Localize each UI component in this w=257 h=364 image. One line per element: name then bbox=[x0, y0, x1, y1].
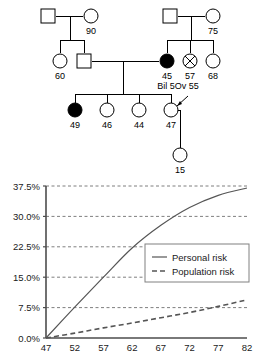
pedigree-label-49: 49 bbox=[70, 120, 80, 130]
pedigree-label-15: 15 bbox=[175, 165, 185, 175]
x-tick-label-6: 77 bbox=[213, 342, 224, 353]
x-tick-label-1: 52 bbox=[69, 342, 80, 353]
pedigree-diagram: 90 75 60 45 57 68 Bil 5Ov 55 bbox=[0, 0, 257, 178]
legend-label-population-risk: Population risk bbox=[172, 266, 235, 277]
chart-y-axis-labels: 0.0%7.5%15.0%22.5%30.0%37.5% bbox=[13, 181, 40, 344]
risk-chart-svg: 0.0%7.5%15.0%22.5%30.0%37.5% 47525762677… bbox=[0, 178, 257, 364]
screenshot-root: 90 75 60 45 57 68 Bil 5Ov 55 bbox=[0, 0, 257, 364]
y-tick-label-0: 0.0% bbox=[18, 333, 40, 344]
pedigree-symbol-gen1-father-right bbox=[163, 9, 177, 23]
x-tick-label-7: 82 bbox=[242, 342, 253, 353]
pedigree-symbol-gen3-daughter-49-affected bbox=[68, 103, 82, 117]
x-tick-label-2: 57 bbox=[98, 342, 109, 353]
pedigree-symbol-gen1-father-left bbox=[41, 9, 55, 23]
pedigree-label-44: 44 bbox=[134, 120, 144, 130]
pedigree-label-90: 90 bbox=[86, 26, 96, 36]
chart-x-axis-labels: 4752576267727782 bbox=[41, 342, 253, 353]
x-tick-label-4: 67 bbox=[156, 342, 167, 353]
proband-arrow-icon bbox=[177, 96, 188, 106]
x-tick-label-0: 47 bbox=[41, 342, 52, 353]
pedigree-label-75: 75 bbox=[208, 26, 218, 36]
x-tick-label-5: 72 bbox=[184, 342, 195, 353]
y-tick-label-1: 7.5% bbox=[18, 302, 40, 313]
pedigree-symbol-gen1-mother-left bbox=[84, 9, 98, 23]
y-tick-label-5: 37.5% bbox=[13, 181, 40, 192]
pedigree-label-57: 57 bbox=[185, 71, 195, 81]
pedigree-symbol-gen3-daughter-46 bbox=[100, 103, 114, 117]
y-tick-label-3: 22.5% bbox=[13, 241, 40, 252]
y-tick-label-4: 30.0% bbox=[13, 211, 40, 222]
pedigree-symbol-gen1-mother-right bbox=[206, 9, 220, 23]
pedigree-symbol-gen2-brother bbox=[77, 54, 91, 68]
pedigree-symbol-gen2-mother-45-affected bbox=[160, 54, 174, 68]
pedigree-label-45: 45 bbox=[162, 71, 172, 81]
pedigree-symbol-gen2-sister-60 bbox=[53, 54, 67, 68]
pedigree-annotation-bilateral-oophorectomy: Bil 5Ov 55 bbox=[157, 81, 199, 91]
pedigree-symbol-gen4-daughter-15 bbox=[173, 148, 187, 162]
pedigree-label-46: 46 bbox=[102, 120, 112, 130]
x-tick-label-3: 62 bbox=[127, 342, 138, 353]
pedigree-symbol-gen3-proband-47 bbox=[164, 103, 178, 117]
pedigree-label-68: 68 bbox=[208, 71, 218, 81]
pedigree-symbol-gen3-daughter-44 bbox=[132, 103, 146, 117]
pedigree-label-47: 47 bbox=[166, 120, 176, 130]
y-tick-label-2: 15.0% bbox=[13, 272, 40, 283]
chart-legend[interactable]: Personal risk Population risk bbox=[145, 244, 249, 282]
pedigree-label-60: 60 bbox=[55, 71, 65, 81]
legend-label-personal-risk: Personal risk bbox=[172, 252, 227, 263]
pedigree-svg: 90 75 60 45 57 68 Bil 5Ov 55 bbox=[0, 0, 257, 178]
pedigree-symbol-gen2-sister-68 bbox=[206, 54, 220, 68]
risk-chart: 0.0%7.5%15.0%22.5%30.0%37.5% 47525762677… bbox=[0, 178, 257, 364]
